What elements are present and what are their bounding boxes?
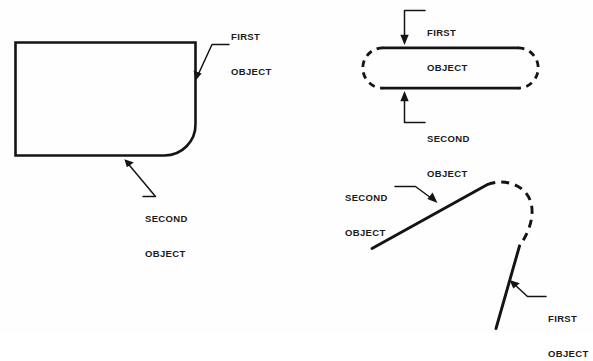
line-first-object [496, 246, 520, 329]
shape-rectangle-filleted [16, 43, 196, 156]
stadium-right-cap-dashed [518, 48, 538, 88]
leader-line-first-object-3 [514, 284, 546, 297]
leader-arrow-first-object-2 [400, 35, 408, 45]
label-first-object-diagram3: FIRST OBJECT [548, 290, 589, 361]
label-second-object-diagram2: SECOND OBJECT [427, 110, 470, 202]
leader-line-first-object [198, 45, 230, 77]
label-first-object-diagram2: FIRST OBJECT [427, 4, 468, 96]
label-second-object-diagram1: SECOND OBJECT [145, 190, 188, 282]
label-second-object-diagram3: SECOND OBJECT [345, 169, 388, 261]
diagram-two-lines-dashed-arc [372, 182, 546, 328]
leader-line-first-object-2 [405, 11, 426, 36]
diagram-rectangle-filleted-corner [16, 43, 230, 197]
stadium-left-cap-dashed [363, 48, 383, 88]
label-first-object-diagram1: FIRST OBJECT [231, 8, 272, 100]
leader-arrow-second-object-2 [400, 91, 408, 101]
leader-line-second-object-2 [405, 101, 426, 123]
arc-dashed-fillet [488, 182, 533, 246]
